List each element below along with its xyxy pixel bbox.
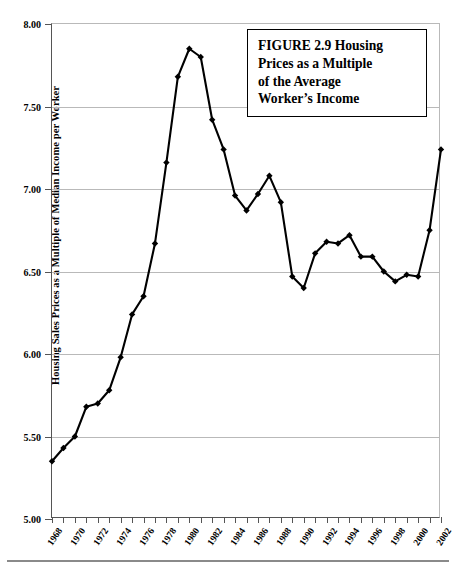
x-axis-tick-label: 1996 — [366, 526, 385, 547]
figure-caption-line: Prices as a Multiple — [258, 55, 422, 73]
data-point-marker — [278, 199, 284, 205]
x-axis-tick-label: 1998 — [389, 526, 408, 547]
x-axis-tick-label: 1984 — [228, 526, 247, 547]
y-axis-tick — [45, 24, 52, 25]
y-axis-tick-label: 6.50 — [24, 266, 42, 277]
y-axis-tick-label: 6.00 — [24, 349, 42, 360]
x-axis-tick-label: 1968 — [45, 526, 64, 547]
figure-caption-line: FIGURE 2.9 Housing — [258, 37, 422, 55]
y-axis-tick — [45, 189, 52, 190]
x-axis-tick-label: 2002 — [434, 526, 453, 547]
x-axis-tick-label: 1980 — [183, 526, 202, 547]
y-axis-tick-label: 5.00 — [24, 514, 42, 525]
figure-caption-box: FIGURE 2.9 HousingPrices as a Multipleof… — [247, 29, 427, 117]
x-axis-tick-label: 1978 — [160, 526, 179, 547]
x-axis-tick-label: 1992 — [320, 526, 339, 547]
x-axis-tick-label: 1974 — [114, 526, 133, 547]
x-axis-tick-label: 1986 — [251, 526, 270, 547]
x-axis-tick — [441, 517, 442, 523]
bottom-divider-rule — [7, 560, 449, 562]
y-axis-tick — [45, 354, 52, 355]
data-point-marker — [415, 273, 421, 279]
x-axis-tick-label: 1988 — [274, 526, 293, 547]
x-axis-tick-label: 1970 — [68, 526, 87, 547]
x-axis-tick-label: 1982 — [206, 526, 225, 547]
figure-container: Housing Sales Prices as a Multiple of Me… — [0, 0, 456, 570]
data-point-marker — [117, 354, 123, 360]
y-axis-tick — [45, 107, 52, 108]
y-axis-tick — [45, 437, 52, 438]
x-axis-tick-label: 1972 — [91, 526, 110, 547]
data-point-marker — [426, 227, 432, 233]
data-point-marker — [220, 146, 226, 152]
y-axis-tick-label: 7.50 — [24, 101, 42, 112]
x-axis-tick-label: 2000 — [411, 526, 430, 547]
figure-caption-line: Worker’s Income — [258, 90, 422, 108]
y-axis-tick — [45, 272, 52, 273]
data-point-marker — [83, 404, 89, 410]
y-axis-tick-label: 7.00 — [24, 184, 42, 195]
data-point-marker — [209, 117, 215, 123]
y-axis-tick — [45, 519, 52, 520]
figure-caption-line: of the Average — [258, 73, 422, 91]
y-axis-tick-label: 5.50 — [24, 431, 42, 442]
x-axis-tick-label: 1994 — [343, 526, 362, 547]
y-axis-tick-label: 8.00 — [24, 19, 42, 30]
x-axis-tick-label: 1976 — [137, 526, 156, 547]
data-point-marker — [175, 74, 181, 80]
data-point-marker — [163, 159, 169, 165]
x-axis-tick-label: 1990 — [297, 526, 316, 547]
data-point-marker — [152, 240, 158, 246]
data-point-marker — [438, 146, 444, 152]
